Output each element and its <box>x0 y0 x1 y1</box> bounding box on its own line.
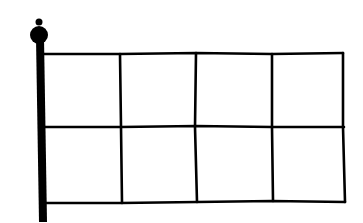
flag-bottom-edge <box>45 201 345 203</box>
flag-drawing <box>0 0 363 222</box>
flag-col-line-2 <box>195 53 197 202</box>
pole-shaft <box>36 38 47 222</box>
flag-top-edge <box>44 53 343 54</box>
flagpole <box>30 19 48 223</box>
pole-finial-tip <box>36 19 43 26</box>
flag-col-line-3 <box>272 54 273 201</box>
flag-grid <box>44 53 345 203</box>
flag-col-line-1 <box>120 54 122 203</box>
